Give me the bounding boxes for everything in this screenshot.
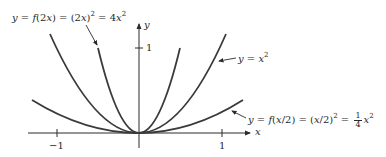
y-tick-label-1: 1: [146, 43, 152, 53]
y-axis-label: y: [144, 20, 150, 30]
pointer-arrow-4x-squared: [86, 25, 97, 45]
curve-x-squared: [50, 34, 226, 133]
pointer-arrow-quarter-x-squared: [232, 111, 246, 118]
fraction-one-quarter: 14: [354, 112, 361, 129]
graph-figure: [0, 0, 386, 157]
label-4x-squared: y = f(2x) = (2x)2 = 4x2: [12, 13, 126, 23]
label-x-squared: y = x2: [238, 54, 269, 64]
pointer-arrow-x-squared: [219, 58, 236, 61]
curve-quarter-x-squared: [32, 100, 243, 133]
x-tick-label-1: 1: [219, 141, 225, 151]
label-quarter-x-squared: y = f(x/2) = (x/2)2 = 14x2: [248, 112, 374, 129]
x-tick-label-neg1: −1: [49, 141, 64, 151]
